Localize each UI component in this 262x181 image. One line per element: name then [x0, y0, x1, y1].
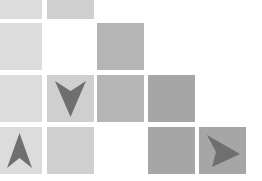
arrow-right-icon	[199, 127, 246, 174]
board-tile[interactable]	[0, 23, 42, 70]
board-tile[interactable]	[47, 0, 94, 19]
board-tile[interactable]	[0, 75, 42, 122]
board-tile[interactable]	[148, 127, 195, 174]
arrow-down-icon	[47, 75, 94, 122]
board-tile[interactable]	[97, 75, 144, 122]
board-tile[interactable]	[148, 75, 195, 122]
board-tile[interactable]	[199, 127, 246, 174]
arrow-up-icon	[0, 127, 43, 174]
board-tile[interactable]	[0, 127, 42, 174]
board-tile[interactable]	[47, 75, 94, 122]
game-board	[0, 0, 262, 181]
board-tile[interactable]	[47, 127, 94, 174]
board-tile[interactable]	[0, 0, 42, 19]
board-tile[interactable]	[97, 23, 144, 70]
